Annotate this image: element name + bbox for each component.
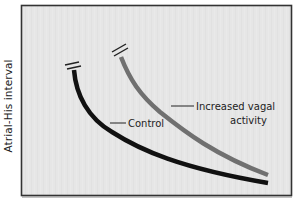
figure: Control Increased vagal activity Atrial-…	[0, 0, 295, 208]
vagal-label-line2: activity	[230, 115, 267, 126]
control-label: Control	[128, 118, 164, 129]
y-axis-label: Atrial-His interval	[2, 59, 14, 152]
vagal-label-line1: Increased vagal	[196, 101, 275, 112]
chart-svg: Control Increased vagal activity	[0, 0, 295, 208]
